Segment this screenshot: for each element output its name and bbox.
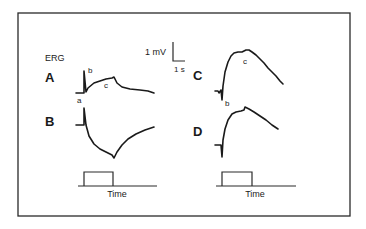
scale-voltage-label: 1 mV <box>145 47 166 57</box>
component-b-label-c: b <box>225 99 230 108</box>
scale-bar: 1 mV 1 s <box>145 42 185 74</box>
stimulus-right: Time <box>216 172 296 199</box>
trace-b <box>76 108 154 158</box>
panel-d: D <box>193 107 278 157</box>
panel-c: C b c <box>193 50 283 108</box>
panel-label-b: B <box>45 114 54 129</box>
panel-a: A a b c <box>45 66 154 105</box>
component-a-label: a <box>77 96 82 105</box>
trace-c <box>215 50 283 100</box>
stimulus-left: Time <box>78 172 157 199</box>
erg-figure: ERG 1 mV 1 s A a b c B C b c D Time <box>0 0 366 229</box>
figure-frame <box>18 13 350 216</box>
time-axis-label-left: Time <box>107 189 127 199</box>
panel-label-c: C <box>193 68 203 83</box>
panel-b: B <box>45 108 154 158</box>
figure-title: ERG <box>45 53 65 63</box>
component-c-label-a: c <box>104 81 108 90</box>
panel-label-d: D <box>193 124 202 139</box>
component-b-label-a: b <box>88 66 93 75</box>
scale-time-label: 1 s <box>174 65 185 74</box>
time-axis-label-right: Time <box>245 189 265 199</box>
component-c-label-c: c <box>243 57 247 66</box>
trace-d <box>215 107 278 157</box>
panel-label-a: A <box>45 70 55 85</box>
